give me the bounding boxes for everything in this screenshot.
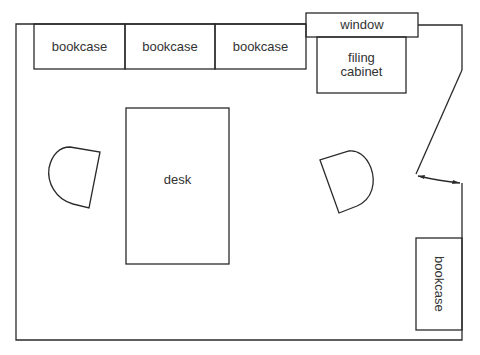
desk-label: desk [126,108,229,264]
bookcase-right-label: bookcase [416,238,462,330]
room-wall-upper-right [418,25,462,70]
chair-left [49,147,100,208]
door-leaf [416,70,462,174]
filing-cabinet-label: filing cabinet [317,37,406,93]
window-label: window [306,13,418,37]
bookcase-1-label: bookcase [34,24,125,69]
bookcase-3-label: bookcase [215,24,306,69]
bookcase-2-label: bookcase [125,24,215,69]
chair-right [320,151,373,213]
